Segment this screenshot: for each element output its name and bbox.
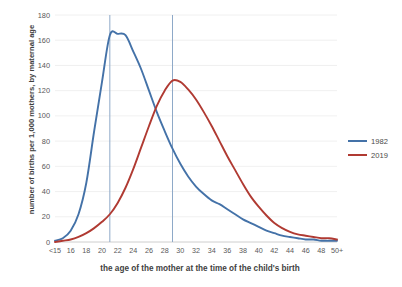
legend-item-label: 1982: [371, 137, 388, 146]
chart-legend: 19822019: [348, 134, 402, 162]
gridlines: [55, 15, 337, 242]
plot-area: [0, 0, 402, 287]
chart-container: number of births per 1,000 mothers, by m…: [0, 0, 402, 287]
legend-swatch-icon: [348, 140, 367, 142]
series-line-2019: [55, 80, 337, 242]
legend-swatch-icon: [348, 154, 367, 156]
series-line-1982: [55, 31, 337, 241]
legend-item[interactable]: 2019: [348, 148, 402, 162]
legend-item-label: 2019: [371, 151, 388, 160]
series-lines: [55, 31, 337, 242]
legend-item[interactable]: 1982: [348, 134, 402, 148]
